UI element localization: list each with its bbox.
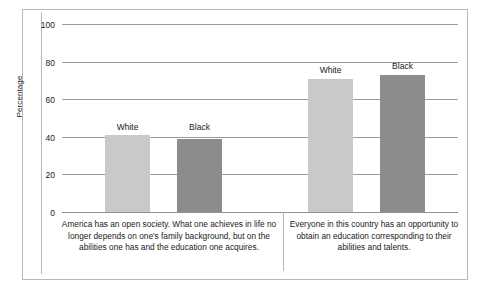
y-tick-label-40: 40 <box>46 133 55 143</box>
group-caption-2: Everyone in this country has an opportun… <box>286 219 462 254</box>
gridline-0-baseline: 0 <box>62 212 458 213</box>
y-tick-label-100: 100 <box>41 20 55 30</box>
y-tick-label-20: 20 <box>46 170 55 180</box>
bar-label-group1-white: White <box>117 122 139 132</box>
y-axis-spine <box>41 12 42 274</box>
group-divider <box>283 212 284 271</box>
bar-label-group1-black: Black <box>189 122 210 132</box>
group-caption-1: America has an open society. What one ac… <box>56 219 282 254</box>
bar-group1-black[interactable] <box>177 139 222 212</box>
y-tick-label-80: 80 <box>46 58 55 68</box>
bar-label-group2-white: White <box>320 65 342 75</box>
y-tick-label-60: 60 <box>46 95 55 105</box>
y-axis-title: Percentage <box>15 57 24 137</box>
bar-group2-black[interactable] <box>380 75 425 212</box>
y-tick-label-0: 0 <box>50 208 55 218</box>
gridline-100: 100 <box>62 24 458 25</box>
plot-area: 100 80 60 40 20 0 White Black White Blac… <box>62 24 458 212</box>
bar-group1-white[interactable] <box>105 135 150 212</box>
bar-group2-white[interactable] <box>308 79 353 213</box>
bar-chart-figure: Percentage 100 80 60 40 20 0 White Black… <box>0 0 477 290</box>
bar-label-group2-black: Black <box>392 61 413 71</box>
